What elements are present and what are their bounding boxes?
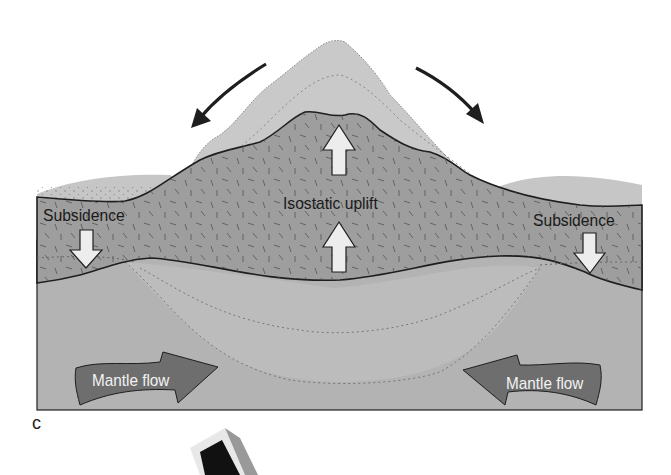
panel-letter: c	[32, 413, 41, 434]
isostasy-diagram	[0, 0, 671, 475]
subsidence-left-label: Subsidence	[43, 206, 125, 226]
subsidence-right-label: Subsidence	[533, 211, 615, 231]
mantle-flow-right-label: Mantle flow	[506, 374, 583, 394]
erosion-arrow-right-icon	[416, 68, 484, 124]
mantle-flow-left-label: Mantle flow	[92, 371, 169, 391]
photo-thumbnail	[190, 428, 258, 475]
isostatic-uplift-label: Isostatic uplift	[283, 194, 378, 214]
